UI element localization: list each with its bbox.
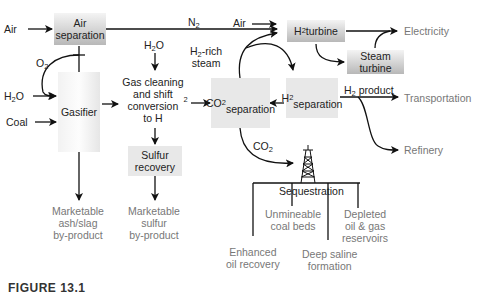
figure-caption: FIGURE 13.1 bbox=[8, 281, 86, 295]
option-depleted-reservoirs: Depletedoil & gasreservoirs bbox=[342, 208, 388, 244]
input-air-turbine: Air bbox=[233, 17, 246, 29]
node-steam-turbine: Steamturbine bbox=[347, 50, 404, 74]
input-coal: Coal bbox=[6, 116, 28, 128]
node-air-separation: Airseparation bbox=[54, 13, 106, 45]
output-refinery: Refinery bbox=[404, 144, 443, 156]
node-h2-turbine: H2 turbine bbox=[287, 20, 345, 42]
output-sulfur: Marketablesulfurby-product bbox=[128, 205, 180, 241]
output-electricity: Electricity bbox=[404, 25, 449, 37]
input-water: H2O bbox=[4, 90, 24, 102]
stream-h2o: H2O bbox=[144, 39, 164, 51]
node-sequestration: Sequestration bbox=[279, 185, 344, 197]
option-deep-saline: Deep salineformation bbox=[302, 248, 357, 272]
node-gas-cleaning: Gas cleaningand shiftconversionto H2 bbox=[119, 72, 191, 128]
node-sulfur-recovery: Sulfurrecovery bbox=[128, 146, 182, 176]
option-unmineable-coal-beds: Unmineablecoal beds bbox=[265, 208, 321, 232]
stream-h2-product: H2 product bbox=[344, 84, 394, 96]
node-gasifier: Gasifier bbox=[58, 72, 100, 152]
stream-n2: N2 bbox=[188, 16, 200, 28]
stream-co2: CO2 bbox=[253, 140, 273, 152]
option-enhanced-oil-recovery: Enhancedoil recovery bbox=[226, 246, 280, 270]
stream-o2: O2 bbox=[36, 57, 48, 69]
node-h2-separation: H2separation bbox=[286, 78, 338, 118]
output-ash-slag: Marketableash/slagby-product bbox=[52, 205, 104, 241]
oil-derrick-icon bbox=[301, 145, 315, 183]
node-co2-separation: CO2separation bbox=[211, 78, 270, 128]
stream-h2-rich-steam: H2-richsteam bbox=[190, 45, 222, 69]
input-air: Air bbox=[4, 23, 17, 35]
output-transportation: Transportation bbox=[404, 92, 471, 104]
